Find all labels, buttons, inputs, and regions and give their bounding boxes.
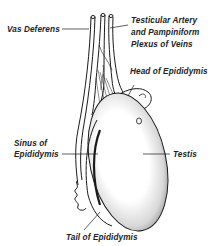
testis-body	[76, 86, 179, 239]
epididymis-coils	[75, 180, 86, 210]
label-testis: Testis	[173, 150, 197, 159]
label-sinus-of-epididymis-1: Sinus of	[14, 139, 47, 148]
label-testicular-artery-1: Testicular Artery	[131, 16, 197, 25]
label-vas-deferens: Vas Deferens	[7, 25, 60, 34]
label-testicular-artery-3: Plexus of Veins	[131, 40, 193, 49]
label-head-of-epididymis: Head of Epididymis	[130, 67, 208, 76]
label-testicular-artery-2: and Pampiniform	[131, 28, 199, 37]
label-sinus-of-epididymis-2: Epididymis	[14, 150, 59, 159]
testis-anatomy-diagram: Vas Deferens Testicular Artery and Pampi…	[0, 0, 220, 246]
label-tail-of-epididymis: Tail of Epididymis	[66, 233, 138, 242]
